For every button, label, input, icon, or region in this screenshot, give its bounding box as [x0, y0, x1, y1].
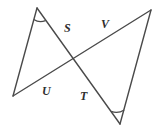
angle-label-u: U	[42, 85, 51, 97]
geometry-figure: S V U T	[0, 0, 159, 132]
angle-arc-icon-bottom-right-vertex	[111, 110, 124, 112]
angle-label-s: S	[64, 22, 71, 34]
angle-label-t: T	[80, 90, 87, 102]
figure-canvas	[0, 0, 159, 132]
segment-left-vertex-to-right-apex	[13, 10, 151, 96]
angle-label-v: V	[101, 18, 109, 30]
angle-arc-icon-top-left-apex	[34, 20, 46, 22]
